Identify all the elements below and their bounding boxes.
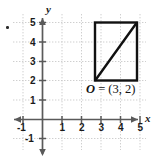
- point-label-o: O = (3, 2): [86, 83, 135, 96]
- x-axis-label: x: [145, 113, 151, 124]
- y-axis-arrow-up: [39, 18, 46, 25]
- point-label-name: O: [86, 82, 95, 96]
- x-tick-label-4: 4: [118, 123, 124, 133]
- coordinate-plane-figure: 5 4 3 2 1 -1 -1 1 2 3 4 5 x y O = (3, 2): [0, 0, 159, 162]
- y-tick-label-4: 4: [30, 38, 36, 48]
- y-axis-arrow-down: [39, 149, 46, 156]
- diagonal-line: [96, 23, 137, 80]
- y-axis-label: y: [46, 4, 51, 15]
- coordinate-plane-graphic: [0, 0, 159, 162]
- x-tick-label-3: 3: [99, 123, 105, 133]
- y-tick-label-2: 2: [30, 76, 36, 86]
- x-axis-arrow-right: [131, 116, 138, 123]
- y-tick-label-5: 5: [30, 18, 36, 28]
- y-tick-label-3: 3: [30, 57, 36, 67]
- point-label-coords: (3, 2): [108, 82, 135, 96]
- y-tick-label-1: 1: [30, 96, 36, 106]
- x-tick-label-2: 2: [79, 123, 85, 133]
- x-tick-label-neg1: -1: [17, 123, 26, 133]
- x-tick-label-5: 5: [138, 123, 144, 133]
- x-tick-label-1: 1: [60, 123, 66, 133]
- y-tick-label-neg1: -1: [25, 134, 34, 144]
